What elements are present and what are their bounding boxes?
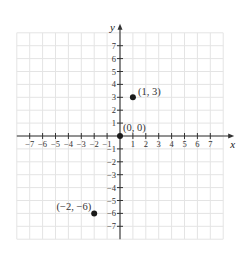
x-tick-label: 6 xyxy=(195,139,199,149)
data-point-label: (0, 0) xyxy=(123,122,146,134)
x-tick-label: −3 xyxy=(77,139,86,149)
data-point-marker xyxy=(117,133,123,139)
data-point-label: (1, 3) xyxy=(138,86,161,98)
y-axis-arrow-icon xyxy=(118,24,123,30)
y-tick-label: 1 xyxy=(112,118,116,128)
y-tick-label: −5 xyxy=(107,196,116,206)
x-tick-label: −5 xyxy=(51,139,60,149)
y-tick-label: 5 xyxy=(112,67,116,77)
x-tick-label: 3 xyxy=(157,139,161,149)
x-tick-label: 2 xyxy=(144,139,148,149)
x-tick-label: 1 xyxy=(131,139,135,149)
x-tick-label: −4 xyxy=(64,139,74,149)
data-point-label: (−2, −6) xyxy=(57,201,92,213)
y-tick-label: −7 xyxy=(107,221,116,231)
y-tick-label: 3 xyxy=(112,92,116,102)
y-tick-label: −3 xyxy=(107,170,116,180)
x-tick-label: −2 xyxy=(90,139,99,149)
y-tick-label: 7 xyxy=(112,41,116,51)
y-tick-label: −6 xyxy=(107,208,116,218)
y-tick-label: −1 xyxy=(107,144,116,154)
y-tick-label: −2 xyxy=(107,157,116,167)
y-tick-label: 2 xyxy=(112,105,116,115)
x-tick-label: 7 xyxy=(208,139,212,149)
y-tick-label: 6 xyxy=(112,54,116,64)
x-tick-label: −6 xyxy=(38,139,47,149)
x-tick-label: 5 xyxy=(182,139,186,149)
y-tick-label: −4 xyxy=(107,183,117,193)
x-tick-label: −7 xyxy=(25,139,34,149)
data-point-marker xyxy=(130,94,136,100)
x-tick-label: 4 xyxy=(169,139,174,149)
data-point-marker xyxy=(91,210,97,216)
coordinate-plane: x y −7−6−5−4−3−2−11234567−7−6−5−4−3−2−11… xyxy=(0,0,245,257)
y-axis-title: y xyxy=(109,21,115,33)
x-axis-title: x xyxy=(229,138,235,150)
